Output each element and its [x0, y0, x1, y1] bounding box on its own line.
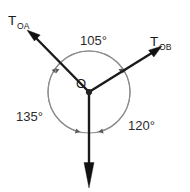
vector-toa-label-base: T [8, 13, 16, 28]
origin-point [86, 89, 92, 95]
arc-path-120 [99, 68, 131, 132]
arc-arrow-head-135-bottom [75, 129, 80, 134]
vector-down-arrowhead [84, 163, 94, 189]
angle-label-120: 120° [128, 118, 155, 133]
diagram-canvas: O T OA T OB 105° 135° 120° [0, 0, 190, 192]
angle-label-135: 135° [16, 109, 43, 124]
angle-arc-105 [55, 51, 122, 73]
angle-label-105: 105° [80, 33, 107, 48]
vector-toa-label-subscript: OA [17, 21, 30, 31]
arc-arrow-head-120-bottom [99, 129, 104, 134]
arc-path-105 [55, 51, 122, 68]
vector-down [84, 92, 94, 188]
arc-arrow-head-105-left [55, 68, 59, 73]
vector-toa-label: T OA [8, 13, 30, 31]
vector-tob-shaft [89, 51, 155, 92]
vector-tob-label-base: T [150, 34, 158, 49]
origin-label: O [76, 76, 86, 91]
vector-tob-label-subscript: OB [159, 42, 172, 52]
force-diagram: O T OA T OB 105° 135° 120° [0, 0, 190, 192]
